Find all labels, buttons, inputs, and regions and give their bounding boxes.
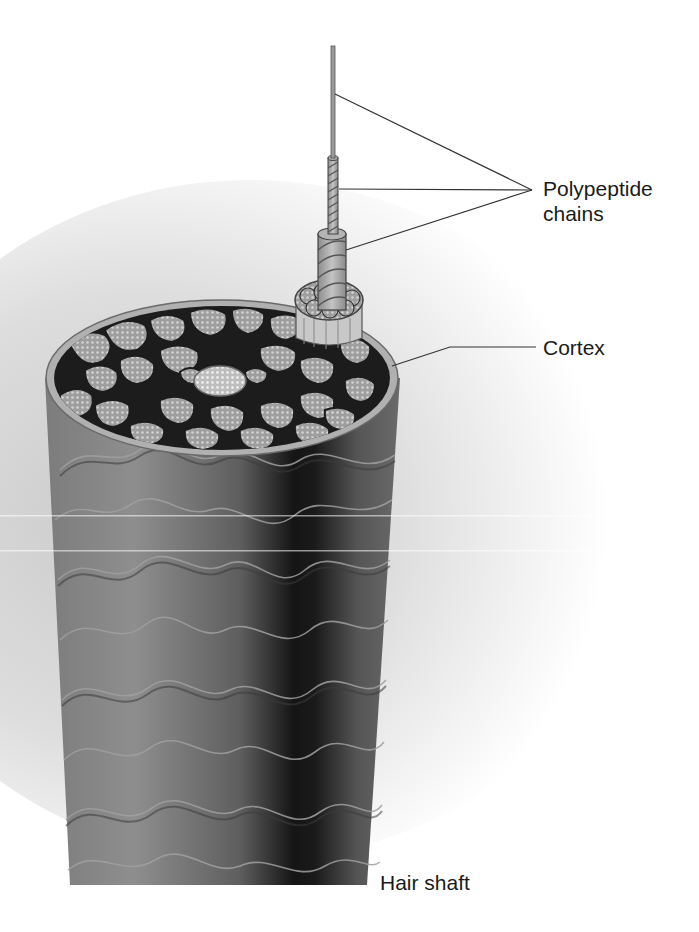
medium-fiber	[328, 156, 338, 235]
label-polypeptide-line2: chains	[543, 201, 653, 226]
label-cortex: Cortex	[543, 335, 605, 360]
hair-structure-diagram: Polypeptide chains Cortex Hair shaft	[0, 0, 699, 932]
label-hair-shaft: Hair shaft	[380, 870, 470, 895]
thin-fiber	[331, 46, 335, 158]
leader-polypeptide-2	[339, 189, 532, 190]
label-polypeptide-chains: Polypeptide chains	[543, 176, 653, 226]
medulla	[194, 366, 246, 396]
leader-polypeptide-1	[335, 94, 532, 190]
diagram-illustration	[0, 0, 699, 932]
thick-fiber	[318, 228, 346, 310]
label-polypeptide-line1: Polypeptide	[543, 176, 653, 201]
